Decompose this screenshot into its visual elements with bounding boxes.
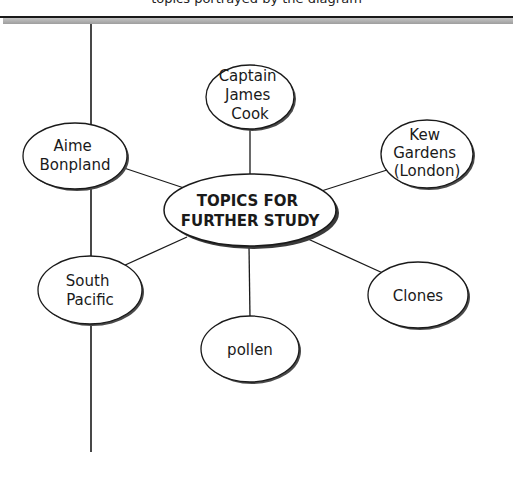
connector-clones [308, 239, 385, 274]
center-node: TOPICS FOR FURTHER STUDY [164, 174, 339, 249]
svg-text:South Pacific: South Pacific [66, 272, 114, 309]
node-label: Kew [409, 126, 440, 144]
node-captain-james-cook: Captain James Cook [206, 65, 296, 131]
node-pollen: pollen [201, 316, 301, 384]
node-label: (London) [394, 162, 461, 180]
node-label: James [224, 86, 270, 104]
node-clones: Clones [368, 262, 470, 330]
node-label: Pacific [66, 291, 114, 309]
node-label: Clones [393, 287, 444, 305]
svg-text:Clones: Clones [393, 287, 444, 305]
connector-pollen [249, 246, 250, 318]
concept-web-diagram: Captain James Cook Kew Gardens (London) … [0, 0, 513, 481]
node-label: South [66, 272, 110, 290]
node-label: Captain [219, 67, 277, 85]
node-kew-gardens: Kew Gardens (London) [381, 120, 475, 190]
connector-south-pacific [123, 237, 187, 266]
node-south-pacific: South Pacific [38, 256, 144, 326]
center-label: TOPICS FOR [197, 192, 299, 210]
center-label: FURTHER STUDY [181, 212, 321, 230]
svg-text:pollen: pollen [227, 341, 273, 359]
node-aime-bonpland: Aime Bonpland [23, 123, 129, 191]
node-label: Bonpland [40, 156, 111, 174]
node-label: Gardens [393, 144, 456, 162]
node-label: pollen [227, 341, 273, 359]
node-label: Aime [53, 137, 91, 155]
node-label: Cook [231, 105, 269, 123]
connector-bonpland [124, 168, 190, 190]
